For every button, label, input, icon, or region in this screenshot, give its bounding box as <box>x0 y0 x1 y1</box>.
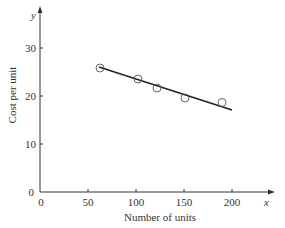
fitted-line <box>99 67 232 110</box>
chart: 0 10 20 30 0 50 100 150 200 x y Number o… <box>0 0 285 228</box>
svg-text:0: 0 <box>38 196 44 208</box>
x-axis-symbol: x <box>263 196 269 208</box>
svg-text:30: 30 <box>25 42 37 54</box>
svg-text:150: 150 <box>176 196 193 208</box>
data-point <box>218 99 226 107</box>
svg-text:200: 200 <box>224 196 241 208</box>
svg-text:100: 100 <box>128 196 145 208</box>
x-tick-labels: 0 50 100 150 200 <box>38 196 241 208</box>
x-axis-label: Number of units <box>124 211 196 223</box>
y-tick-labels: 0 10 20 30 <box>25 42 37 198</box>
data-points <box>96 64 226 107</box>
svg-text:10: 10 <box>25 138 37 150</box>
axes <box>38 6 276 195</box>
svg-text:50: 50 <box>83 196 95 208</box>
y-axis-label: Cost per unit <box>6 67 18 124</box>
svg-text:0: 0 <box>29 186 35 198</box>
svg-text:20: 20 <box>25 90 37 102</box>
y-axis-symbol: y <box>30 9 36 21</box>
